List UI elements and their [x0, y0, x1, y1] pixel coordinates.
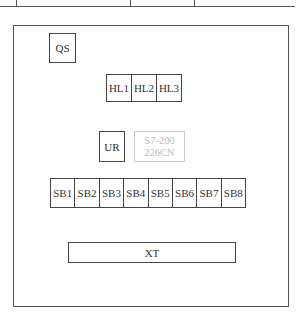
plc-module: S7-200 226CN [134, 131, 185, 162]
indicator-light-hl1: HL1 [107, 75, 131, 101]
table-bottom-border [0, 6, 295, 7]
button-sb4: SB4 [123, 179, 147, 207]
button-sb2: SB2 [74, 179, 98, 207]
table-divider [194, 0, 195, 6]
sb2-label: SB2 [78, 187, 97, 199]
terminal-block-xt: XT [68, 242, 236, 263]
sb6-label: SB6 [175, 187, 194, 199]
hl2-label: HL2 [134, 82, 154, 94]
indicator-light-hl3: HL3 [156, 75, 181, 101]
sb1-label: SB1 [53, 187, 72, 199]
button-group: SB1 SB2 SB3 SB4 SB5 SB6 SB7 SB8 [50, 178, 246, 208]
indicator-light-hl2: HL2 [131, 75, 156, 101]
table-divider [130, 0, 131, 6]
plc-model-line1: S7-200 [144, 135, 174, 147]
button-sb8: SB8 [221, 179, 245, 207]
qs-breaker: QS [49, 33, 76, 63]
sb8-label: SB8 [224, 187, 243, 199]
button-sb1: SB1 [51, 179, 74, 207]
table-divider [16, 0, 17, 6]
ur-label: UR [104, 141, 119, 153]
sb7-label: SB7 [199, 187, 218, 199]
button-sb6: SB6 [172, 179, 196, 207]
sb4-label: SB4 [126, 187, 145, 199]
button-sb7: SB7 [196, 179, 220, 207]
hl3-label: HL3 [159, 82, 179, 94]
button-sb5: SB5 [148, 179, 172, 207]
plc-model-line2: 226CN [144, 147, 174, 159]
qs-label: QS [55, 42, 69, 54]
ur-power-supply: UR [99, 131, 125, 162]
sb3-label: SB3 [102, 187, 121, 199]
xt-label: XT [145, 247, 160, 259]
button-sb3: SB3 [99, 179, 123, 207]
control-panel-frame [13, 25, 289, 307]
indicator-light-group: HL1 HL2 HL3 [106, 74, 182, 102]
hl1-label: HL1 [109, 82, 129, 94]
sb5-label: SB5 [151, 187, 170, 199]
